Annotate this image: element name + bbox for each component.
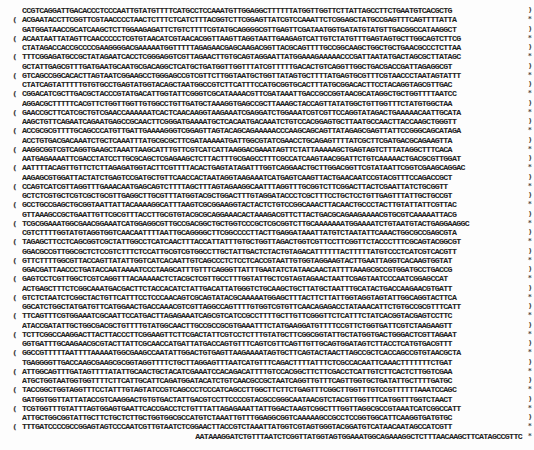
sequence-line: AGGACGCTTTTTCACGTTCTGGTTGGTTGTGGCCTGTTGA… [22, 99, 522, 108]
sequence-block: CCGTCAGGATTGACACCCTCCCAATTGTATGTTTTCATGC… [22, 6, 522, 441]
strand-hook-icon: ( [13, 52, 16, 61]
sequence-line: GGACGATTAACCCTGATACCAATAAAATCCCTAAGCATTT… [22, 265, 522, 274]
strand-hook-icon: ( [13, 108, 16, 117]
sequence-line: GATGGTGGTTATTATACCGTCAAGGACTGTGTGACTATTG… [22, 395, 522, 404]
sequence-line: GCTCTCGTGCTCGTCGCTGCGTTGAGGCTTGCGTTTATGG… [22, 191, 522, 200]
sequence-line: AATTTTACAGTTGTTCTCTTAGAGATGGTACTTCGTTTTA… [22, 163, 522, 172]
sequence-line: CGGACATCGCTTGACGCTACCCGTATGACATTGGTATTCG… [22, 89, 522, 98]
sequence-text: TTTCGGAGATGCCGCTATAGAATCACCTCGGGAGGTCGTT… [22, 52, 461, 61]
strand-hook-icon: ( [13, 219, 16, 228]
line-end-paren-icon: ) [528, 191, 531, 200]
line-end-paren-icon: ) [528, 117, 531, 126]
sequence-line: CTATCAGTATTTTTGTGTGCCTGAGTATGGTACAGCTAAT… [22, 80, 522, 89]
strand-hook-icon: ( [13, 71, 16, 80]
sequence-line: TAGAGCTTCCTCAGCGGTCGCTATTGGCCTCATCAACTTT… [22, 237, 522, 246]
line-end-mark-icon: * [528, 293, 531, 302]
sequence-line: CCGTCAGGATTGACACCCTCCCAATTGTATGTTTTCATGC… [22, 6, 522, 15]
line-end-mark-icon: * [528, 34, 531, 43]
sequence-line: AATGAGAAAATTCGACCTATCCTTGCGCAGCTCGAGAAGC… [22, 154, 522, 163]
line-end-mark-icon: * [528, 15, 531, 24]
sequence-line: ACCTGTGACGACAAATCTGCTCAAATTTATGCGCGCTTCG… [22, 136, 522, 145]
sequence-line: GGACGCCGTTGGCGCTCTCCGTCTTTCTCCATTGCGTCGT… [22, 247, 522, 256]
line-end-paren-icon: ) [528, 247, 531, 256]
sequence-text: GTCAGCCGGCACACTTAGTAATCGGAAGCCTGGGAGCCGT… [22, 71, 461, 80]
line-end-paren-icon: ) [528, 395, 531, 404]
strand-hook-icon: ( [13, 182, 16, 191]
sequence-line: GATGGATAACCGCATCAAGCTCTTGGAAGAGATTCTGTCT… [22, 25, 522, 34]
line-end-paren-icon: ) [528, 284, 531, 293]
sequence-line: ATACCGATATTGCTGGCGACGCTGTTTTGTATGGCAACTT… [22, 321, 522, 330]
sequence-text: AAGAGCGTGGATTACTATCTGAGTCCGATGCTGTTCAACC… [22, 173, 452, 182]
sequence-text: CGGACATCGCTTGACGCTACCCGTATGACATTGGTATTCG… [22, 89, 456, 98]
line-end-paren-icon: ) [528, 339, 531, 348]
sequence-line: ACTGAGCTTTCTCGGCAAATGACGACTTCTACCACATCTA… [22, 284, 522, 293]
sequence-text: GTTAAAGCCGCTGAATTGTTCGCGTTTACCTTGCGTGTAC… [22, 210, 456, 219]
line-end-paren-icon: ) [528, 43, 531, 52]
sequence-line: TCGTGGTTTGTATTTAGTGGAGTGAATTCACCGACCTCTG… [22, 404, 522, 413]
line-end-mark-icon: * [528, 311, 531, 320]
strand-hook-icon: ( [13, 385, 16, 394]
sequence-text: AGGACGCTTTTTCACGTTCTGGTTGGTTGTGGCCTGTTGA… [22, 99, 452, 108]
sequence-text: AAGCTGTTCAGAATCAGAATGAGCCGCAACTTCGGGATGA… [22, 117, 456, 126]
strand-hook-icon: ( [13, 367, 16, 376]
sequence-line: GGTGATTTGCAAGAACGCGTACTTATTCGCAACCATGATT… [22, 339, 522, 348]
sequence-text: TTTGATCCCCGCCGGAGTAGTCCCAATCGTTGTAATCTCG… [22, 422, 452, 431]
sequence-line: AAGCTGTTCAGAATCAGAATGAGCCGCAACTTCGGGATGA… [22, 117, 522, 126]
sequence-text: GGCCGTTTTTAATTTTAAAAATGGCGAAGCCAATATTGGA… [22, 348, 461, 357]
sequence-line: GAGTCCTCGTTGGCTCGTCAGGTTTACAAAAACTCTACGC… [22, 274, 522, 283]
sequence-line: GTTAAAGCCGCTGAATTGTTCGCGTTTACCTTGCGTGTAC… [22, 210, 522, 219]
sequence-page: CCGTCAGGATTGACACCCTCCCAATTGTATGTTTTCATGC… [0, 0, 534, 450]
sequence-text: ATACCGATATTGCTGGCGACGCTGTTTTGTATGGCAACTT… [22, 321, 452, 330]
sequence-line: ACGAATACCTTCGGTTCGTAACCCCTAACTCTTTCTCATC… [22, 15, 522, 24]
line-end-mark-icon: * [528, 367, 531, 376]
strand-hook-icon: ( [13, 256, 16, 265]
line-end-mark-icon: * [528, 163, 531, 172]
sequence-text: GATGGTGGTTATTATACCGTCAAGGACTGTGTGACTATTG… [22, 395, 452, 404]
sequence-text: GCTCTCGTGCTCGTCGCTGCGTTGAGGCTTGCGTTTATGG… [22, 191, 452, 200]
line-end-paren-icon: ) [528, 265, 531, 274]
sequence-line: CCAGTCATCGTTAGGTTTGAAACAATGAGCAGTCTTTTAG… [22, 182, 522, 191]
sequence-text: ATTGCTGGCGGTATTGCTTCTGCTCTTGCTGGTGGCGCCA… [22, 413, 452, 422]
sequence-line: GTCTCTAATCTCGGCTACTGTTCATTTCCTCCCAACAGTC… [22, 293, 522, 302]
line-end-mark-icon: * [528, 145, 531, 154]
line-end-paren-icon: ) [528, 80, 531, 89]
strand-hook-icon: ( [13, 422, 16, 431]
sequence-text: TACCGGCTGGTAGGTTTCCTATTTGTAGTATCCGTCAGCC… [22, 385, 456, 394]
sequence-text: ATGCTGGTAATGGTGGTTTTCTTCATTGCATTCAGATGGA… [22, 376, 452, 385]
sequence-line: ATTGCTGGCGGTATTGCTTCTGCTCTTGCTGGTGGCGCCA… [22, 413, 522, 422]
sequence-line: GTCAGCCGGCACACTTAGTAATCGGAAGCCTGGGAGCCGT… [22, 71, 522, 80]
sequence-line: CTATAGACCACCGCCCCGAAGGGGACGAAAAATGGTTTTT… [22, 43, 522, 52]
sequence-text: AATGAGAAAATTCGACCTATCCTTGCGCAGCTCGAGAAGC… [22, 154, 461, 163]
sequence-line: CGTCTTTTGGTATGTAGGTGGTCAACAATTTTAATTGCAG… [22, 228, 522, 237]
line-end-mark-icon: * [528, 200, 531, 209]
sequence-text: GGACGCCGTTGGCGCTCTCCGTCTTTCTCCATTGCGTCGT… [22, 247, 456, 256]
sequence-line: TTTCGGAGATGCCGCTATAGAATCACCTCGGGAGGTCGTT… [22, 52, 522, 61]
line-end-mark-icon: * [528, 274, 531, 283]
sequence-line: ACAATAATTATAGTTCAACCCCCTCGTGTAACATCGTAAC… [22, 34, 522, 43]
strand-hook-icon: ( [13, 126, 16, 135]
sequence-text: GAGTCCTCGTTGGCTCGTCAGGTTTACAAAAACTCTACGC… [22, 274, 448, 283]
sequence-text: CCGTCAGGATTGACACCCTCCCAATTGTATGTTTTCATGC… [22, 6, 452, 15]
sequence-text: TAGAGCTTCCTCAGCGGTCGCTATTGGCCTCATCAACTTT… [22, 237, 461, 246]
sequence-text: AATAAAGGATCTGTTTAATCTCGGTTATGGTAGTGGAAAT… [195, 432, 522, 441]
sequence-text: ACGAATACCTTCGGTTCGTAACCCCTAACTCTTTCTCATC… [22, 15, 456, 24]
line-end-mark-icon: * [528, 385, 531, 394]
sequence-line: GCTATTGAGCGTTTGATGAATGCAATGCGACAGGCTCATG… [22, 62, 522, 71]
line-end-paren-icon: ) [528, 25, 531, 34]
sequence-text: ACTGAGCTTTCTCGGCAAATGACGACTTCTACCACATCTA… [22, 284, 452, 293]
strand-hook-icon: ( [13, 34, 16, 43]
line-end-paren-icon: ) [528, 358, 531, 367]
strand-hook-icon: ( [13, 330, 16, 339]
sequence-line: AATAAAGGATCTGTTTAATCTCGGTTATGGTAGTGGAAAT… [22, 432, 522, 441]
line-end-paren-icon: ) [528, 62, 531, 71]
line-end-mark-icon: * [528, 89, 531, 98]
sequence-text: CGTCTTTTGGTATGTAGGTGGTCAACAATTTTAATTGCAG… [22, 228, 456, 237]
strand-hook-icon: ( [13, 163, 16, 172]
sequence-line: TTTGATCCCCGCCGGAGTAGTCCCAATCGTTGTAATCTCG… [22, 422, 522, 431]
sequence-text: TCGCGGAAATGGCGAACGGAAATCATGGAGGCGTTGCCGA… [22, 219, 469, 228]
line-end-paren-icon: ) [528, 321, 531, 330]
sequence-text: AATTTTACAGTTGTTCTCTTAGAGATGGTACTTCGTTTTA… [22, 163, 465, 172]
sequence-text: TCTTCGGCCAAGGACTTACTTACCCTTCGGAAGTTCTTCG… [22, 330, 456, 339]
sequence-line: TCTTCGGCCAAGGACTTACTTACCCTTCGGAAGTTCTTCG… [22, 330, 522, 339]
sequence-line: GCCTGCCGAGCTGCGGTAATTATTACAAAAGGCATTTAAG… [22, 200, 522, 209]
